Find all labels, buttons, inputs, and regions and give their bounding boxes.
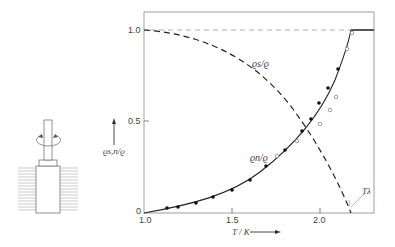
rotating-cylinder-icon xyxy=(18,120,78,213)
y-axis-label: ϱs,n/ϱ xyxy=(103,146,125,156)
y-tick-05: 0.5 xyxy=(128,116,141,126)
x-tick-2: 2.0 xyxy=(313,215,326,225)
x-axis-label: T / K xyxy=(232,227,250,237)
y-tick-1: 1.0 xyxy=(128,25,141,35)
rho-n-label: ϱn/ϱ xyxy=(250,152,268,163)
plot-frame xyxy=(144,12,374,213)
open-markers xyxy=(275,31,354,158)
rho-s-curve xyxy=(144,30,351,213)
rho-s-label: ϱs/ϱ xyxy=(252,58,269,69)
x-tick-15: 1.5 xyxy=(226,215,239,225)
t-lambda-label: Tλ xyxy=(362,186,371,196)
x-tick-1: 1.0 xyxy=(139,215,152,225)
chart-canvas xyxy=(0,0,395,247)
